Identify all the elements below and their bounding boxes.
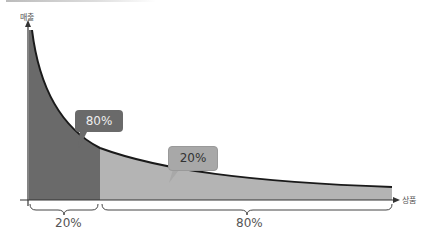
brace-label-right: 80% xyxy=(236,216,263,230)
tail-area xyxy=(100,148,392,200)
callout-head-share: 80% xyxy=(75,110,123,132)
brace-left xyxy=(30,204,98,215)
brace-label-left: 20% xyxy=(55,216,82,230)
callout-tail-share: 20% xyxy=(168,146,218,171)
y-axis-label: 매출 xyxy=(20,11,34,22)
pareto-chart xyxy=(0,0,436,248)
brace-right xyxy=(102,204,392,215)
x-axis-arrow-icon xyxy=(393,197,400,203)
x-axis-label: 상품 xyxy=(402,194,416,205)
